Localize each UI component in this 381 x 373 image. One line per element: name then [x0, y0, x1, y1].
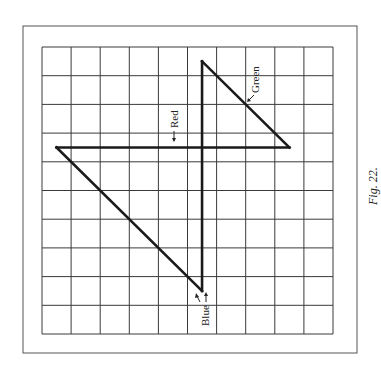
blue-label-group: Blue [195, 292, 211, 326]
red-arrowhead-icon [172, 138, 176, 142]
green-label: Green [249, 66, 261, 93]
green-arrow-icon [249, 95, 254, 100]
blue-arrowhead-left-icon [195, 293, 199, 298]
green-label-group: Green [247, 66, 261, 102]
red-label-group: Red [168, 110, 180, 142]
figure-22: Red Green Blue Fig. 22. [0, 0, 381, 373]
figure-caption: Fig. 22. [366, 167, 380, 206]
grid [42, 47, 333, 334]
outer-frame [23, 26, 357, 353]
blue-arrowhead-right-icon [204, 292, 208, 296]
red-label: Red [168, 110, 180, 128]
blue-label: Blue [199, 305, 211, 326]
traces [57, 61, 290, 291]
